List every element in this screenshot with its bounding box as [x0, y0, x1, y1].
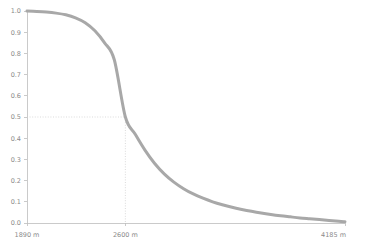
y-tick-label: 0.6 — [11, 92, 21, 100]
y-tick-label: 0.7 — [11, 71, 21, 79]
y-tick-label: 0.4 — [11, 135, 21, 143]
x-axis: 1890 m2600 m4185 m — [15, 223, 346, 239]
y-tick-label: 0.0 — [11, 219, 21, 227]
y-tick-label: 1.0 — [11, 7, 21, 15]
chart-container: 0.00.10.20.30.40.50.60.70.80.91.0 1890 m… — [0, 0, 366, 244]
y-tick-label: 0.2 — [11, 177, 21, 185]
y-axis-ticks — [24, 11, 27, 223]
y-tick-label: 0.9 — [11, 29, 21, 37]
y-tick-label: 0.3 — [11, 156, 21, 164]
y-axis: 0.00.10.20.30.40.50.60.70.80.91.0 — [11, 7, 27, 227]
x-axis-tick-labels: 1890 m2600 m4185 m — [15, 231, 346, 239]
median-guide-lines — [27, 117, 125, 223]
x-tick-label: 1890 m — [15, 231, 40, 239]
x-tick-label: 2600 m — [113, 231, 138, 239]
x-axis-ticks — [27, 223, 345, 226]
y-axis-tick-labels: 0.00.10.20.30.40.50.60.70.80.91.0 — [11, 7, 21, 227]
y-tick-label: 0.1 — [11, 198, 21, 206]
x-tick-label: 4185 m — [321, 231, 346, 239]
y-tick-label: 0.5 — [11, 113, 21, 121]
line-chart: 0.00.10.20.30.40.50.60.70.80.91.0 1890 m… — [0, 0, 366, 244]
y-tick-label: 0.8 — [11, 50, 21, 58]
data-series-curve — [27, 11, 345, 222]
